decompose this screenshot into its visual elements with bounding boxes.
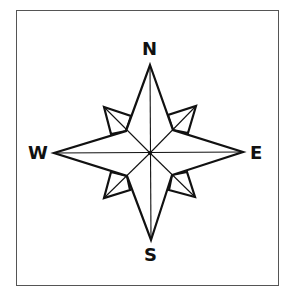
label-east: E: [250, 144, 262, 162]
label-north: N: [142, 40, 157, 58]
label-west: W: [28, 144, 48, 162]
label-south: S: [144, 246, 157, 264]
center-point: [148, 151, 152, 155]
